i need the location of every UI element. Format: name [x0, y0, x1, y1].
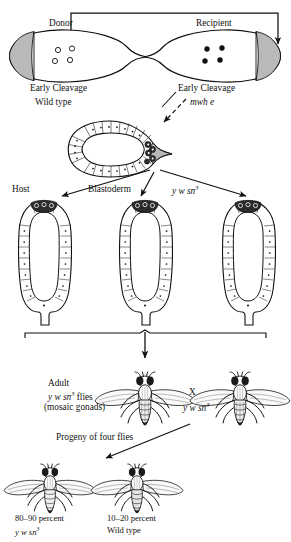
progeny-fly-2: [91, 464, 183, 513]
adult-genotype-main: y w sn: [48, 392, 71, 402]
cross-symbol: X: [189, 387, 196, 397]
host-embryo-2: [120, 200, 173, 325]
progeny-1-phenotype-superscript: 3: [36, 526, 39, 532]
adult-genotype-label: y w sn3 flies: [48, 390, 93, 403]
progeny-fly-1: [4, 464, 96, 513]
host-label: Host: [12, 184, 30, 194]
embryos-bracket: [25, 330, 266, 358]
adult-gonads-note: (mosaic gonads): [44, 402, 105, 412]
figure-canvas: Donor Recipient Early Cleavage Wild type…: [0, 0, 291, 542]
progeny-1-phenotype-main: y w sn: [15, 527, 36, 537]
adult-label: Adult: [48, 378, 69, 388]
donor-genotype-label: Wild type: [35, 97, 72, 107]
mate-genotype-superscript: 3: [206, 401, 209, 408]
recipient-label: Recipient: [196, 18, 232, 28]
recipient-genotype-pointer: [162, 92, 176, 107]
recipient-to-blastoderm-arrow: [164, 99, 186, 122]
host-embryo-3: [223, 200, 276, 325]
recipient-stage-label: Early Cleavage: [178, 83, 235, 93]
recipient-embryo: [144, 30, 281, 82]
recipient-genotype-label: mwh e: [190, 97, 214, 107]
progeny-1-percent: 80–90 percent: [15, 514, 64, 524]
blastoderm-genotype-superscript: 3: [195, 184, 198, 191]
mate-genotype-label: y w sn3: [183, 401, 209, 414]
blastoderm-embryo: [68, 121, 172, 177]
donor-embryo: [10, 30, 148, 82]
mate-genotype-main: y w sn: [183, 403, 206, 413]
diagram-artwork: [0, 0, 291, 542]
blastoderm-label: Blastoderm: [88, 184, 131, 194]
donor-label: Donor: [49, 18, 73, 28]
donor-stage-label: Early Cleavage: [30, 83, 87, 93]
adult-genotype-suffix: flies: [74, 392, 92, 402]
progeny-2-phenotype: Wild type: [107, 526, 141, 536]
adult-fly-mate: [190, 372, 290, 426]
progeny-2-percent: 10–20 percent: [107, 514, 156, 524]
blastoderm-genotype-label: y w sn3: [172, 184, 198, 197]
adult-fly-mosaic: [95, 372, 195, 426]
host-embryo-1: [19, 200, 72, 325]
progeny-1-phenotype: y w sn3: [15, 526, 39, 537]
progeny-heading: Progeny of four flies: [56, 432, 133, 442]
blastoderm-genotype-main: y w sn: [172, 186, 195, 196]
